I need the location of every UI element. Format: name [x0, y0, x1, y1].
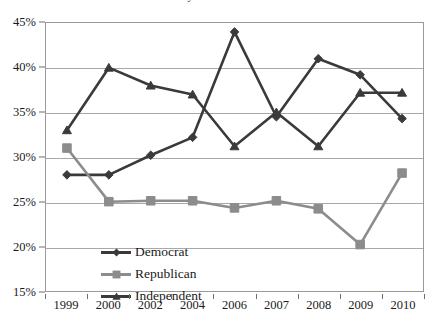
data-point-marker — [63, 144, 72, 153]
x-axis-tick-label: 2010 — [390, 298, 415, 313]
data-point-marker — [272, 197, 281, 206]
legend-marker-square-icon — [101, 267, 131, 281]
y-axis-tick-label: 30% — [13, 150, 36, 165]
x-axis-tick — [171, 294, 172, 299]
data-point-marker — [105, 171, 114, 180]
x-axis-tick — [213, 294, 214, 299]
legend-label: Democrat — [135, 244, 188, 260]
plot-area: DemocratRepublicanIndependent — [45, 22, 424, 292]
x-axis-tick — [298, 294, 299, 299]
data-point-marker — [230, 204, 239, 213]
x-axis-tick — [424, 294, 425, 299]
x-axis-tick — [87, 294, 88, 299]
y-axis: 45%40%35%30%25%20%15% — [0, 22, 45, 292]
data-point-marker — [398, 169, 407, 178]
x-axis-tick — [129, 294, 130, 299]
x-axis-tick-label: 2009 — [348, 298, 373, 313]
line-chart: Party Identification 45%40%35%30%25%20%1… — [0, 0, 433, 320]
y-axis-tick-label: 25% — [13, 195, 36, 210]
x-axis-tick-label: 2006 — [222, 298, 247, 313]
x-axis-tick — [340, 294, 341, 299]
series-line — [67, 148, 402, 244]
x-axis-tick-label: 2007 — [264, 298, 289, 313]
data-point-marker — [230, 28, 239, 37]
data-point-marker — [105, 197, 114, 206]
x-axis-tick-label: 2008 — [306, 298, 331, 313]
data-point-marker — [188, 197, 197, 206]
x-axis: 199920002002200420062007200820092010 — [45, 294, 424, 318]
series-democrat — [63, 28, 407, 179]
y-axis-tick-label: 45% — [13, 15, 36, 30]
series-republican — [63, 144, 407, 249]
x-axis-tick-label: 2004 — [180, 298, 205, 313]
data-point-marker — [188, 133, 197, 142]
series-independent — [62, 63, 406, 149]
y-axis-tick-label: 20% — [13, 240, 36, 255]
data-point-marker — [314, 205, 323, 214]
x-axis-tick — [45, 294, 46, 299]
x-axis-tick — [382, 294, 383, 299]
data-point-marker — [146, 151, 155, 160]
legend-item-democrat[interactable]: Democrat — [101, 241, 231, 263]
legend-item-republican[interactable]: Republican — [101, 263, 231, 285]
y-axis-tick-label: 15% — [13, 285, 36, 300]
x-axis-tick-label: 2000 — [96, 298, 121, 313]
x-axis-tick-label: 1999 — [54, 298, 79, 313]
legend-marker-diamond-icon — [101, 245, 131, 259]
legend-label: Republican — [135, 266, 196, 282]
data-point-marker — [146, 197, 155, 206]
x-axis-tick — [256, 294, 257, 299]
x-axis-tick-label: 2002 — [138, 298, 163, 313]
data-point-marker — [356, 240, 365, 249]
y-axis-tick-label: 40% — [13, 60, 36, 75]
data-point-marker — [104, 63, 113, 71]
data-point-marker — [63, 171, 72, 180]
chart-title-clipped: Party Identification — [0, 0, 433, 2]
series-line — [67, 68, 402, 147]
y-axis-tick-label: 35% — [13, 105, 36, 120]
